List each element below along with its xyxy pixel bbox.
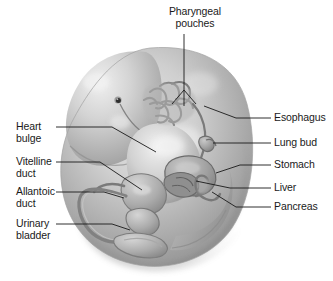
label-esophagus: Esophagus [274,112,326,124]
label-liver: Liver [274,182,296,194]
label-allantoic-duct: Allantoic duct [16,186,55,209]
label-vitelline-duct: Vitelline duct [16,156,52,179]
label-pharyngeal-pouches: Pharyngeal pouches [153,6,237,29]
label-heart-bulge: Heart bulge [16,121,41,144]
label-lung-bud: Lung bud [274,137,317,149]
label-pancreas: Pancreas [274,201,318,213]
embryo-diagram-figure: Pharyngeal pouches Esophagus Lung bud St… [0,0,333,281]
label-stomach: Stomach [274,159,315,171]
label-urinary-bladder: Urinary bladder [16,218,50,241]
